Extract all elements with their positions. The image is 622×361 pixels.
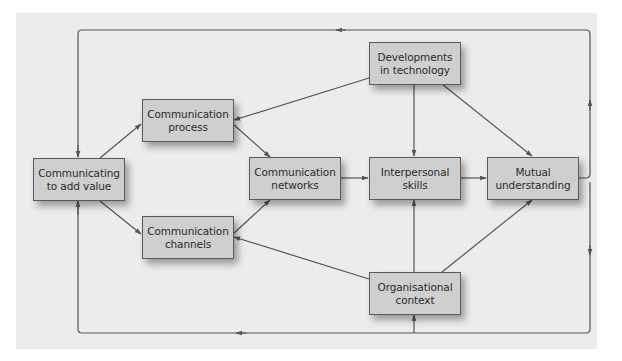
node-communication-process[interactable]: Communication process [142,99,234,142]
node-label-line2: to add value [47,180,111,193]
node-label-line2: networks [271,179,318,192]
node-label-line1: Communication [147,108,228,121]
node-label-line1: Interpersonal [381,166,450,179]
node-label-line1: Communicating [38,167,120,180]
node-label-line2: channels [165,238,211,251]
node-organisational-context[interactable]: Organisational context [369,272,461,315]
node-mutual-understanding[interactable]: Mutual understanding [487,157,579,200]
node-label-line1: Communication [147,225,228,238]
node-interpersonal-skills[interactable]: Interpersonal skills [369,157,461,200]
node-label-line2: process [168,121,208,134]
node-communication-networks[interactable]: Communication networks [249,157,341,200]
node-label-line2: context [396,294,435,307]
node-label-line1: Organisational [377,281,452,294]
node-label-line2: in technology [380,64,450,77]
node-label-line1: Communication [254,166,335,179]
node-communication-channels[interactable]: Communication channels [142,216,234,259]
node-label-line2: skills [402,179,427,192]
node-label-line1: Developments [378,51,453,64]
node-label-line2: understanding [495,179,570,192]
node-communicating-to-add-value[interactable]: Communicating to add value [33,158,125,201]
node-developments-in-technology[interactable]: Developments in technology [369,42,461,85]
node-label-line1: Mutual [515,166,550,179]
